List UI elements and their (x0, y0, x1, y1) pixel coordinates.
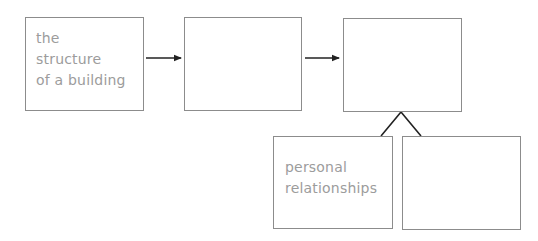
box-1-label: the structure of a building (36, 28, 126, 91)
box-2-empty (184, 17, 302, 111)
branch-connector (381, 112, 421, 136)
box-5-empty (402, 136, 521, 230)
box-1-line-1: the (36, 28, 126, 49)
box-4-line-2: relationships (285, 178, 377, 199)
box-1-line-2: structure (36, 49, 126, 70)
box-4-line-1: personal (285, 157, 377, 178)
box-4-label: personal relationships (285, 157, 377, 199)
box-3-empty (343, 18, 462, 112)
box-1-line-3: of a building (36, 70, 126, 91)
